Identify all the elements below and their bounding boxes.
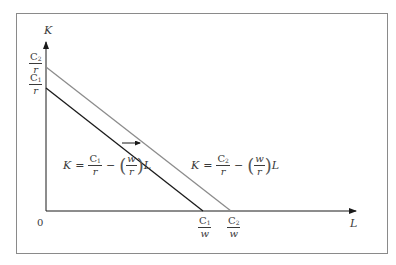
equation-c1: K = C1 r − ( w r ) L xyxy=(63,154,151,177)
y-intercept-c1: C1 r xyxy=(29,73,42,96)
close-paren: ) xyxy=(265,157,272,175)
open-paren: ( xyxy=(119,157,126,175)
y-axis-label: K xyxy=(44,25,52,36)
open-paren: ( xyxy=(247,157,254,175)
close-paren: ) xyxy=(137,157,144,175)
x-intercept-c1: C1 w xyxy=(198,216,211,239)
equation-c2: K = C2 r − ( w r ) L xyxy=(191,154,279,177)
isocost-line-c1 xyxy=(46,88,203,211)
x-axis-label: L xyxy=(350,218,357,229)
isocost-line-c2 xyxy=(46,67,231,211)
origin-label: 0 xyxy=(37,217,43,228)
x-intercept-c2: C2 w xyxy=(227,216,240,239)
